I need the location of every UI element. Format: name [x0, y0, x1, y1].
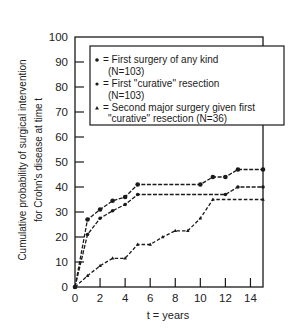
x-axis-ticks: 02468101214	[72, 278, 258, 304]
triangle-marker-icon	[173, 229, 177, 232]
series-line	[75, 187, 263, 287]
y-tick-label: 30	[55, 206, 68, 218]
dot-marker-icon	[85, 217, 90, 222]
x-axis-title: t = years	[147, 309, 190, 321]
series-1	[73, 167, 266, 289]
y-tick-label: 50	[55, 156, 68, 168]
legend-entry-1-line2: (N=103)	[108, 66, 144, 77]
dot-marker-icon	[224, 193, 228, 197]
y-tick-label: 70	[55, 106, 68, 118]
dot-marker-icon	[236, 185, 240, 189]
legend-marker-first-surgery-icon	[95, 58, 99, 62]
dot-marker-icon	[98, 207, 103, 212]
dot-marker-icon	[198, 182, 203, 187]
x-tick-label: 0	[72, 292, 78, 304]
triangle-marker-icon	[111, 256, 115, 259]
dot-marker-icon	[261, 185, 265, 189]
dot-marker-icon	[111, 209, 115, 213]
y-tick-label: 60	[55, 131, 68, 143]
dot-marker-icon	[123, 195, 128, 200]
legend: = First surgery of any kind (N=103) = Fi…	[90, 46, 284, 125]
data-series	[73, 167, 266, 289]
y-axis-title-line2: for Crohn's disease at time t	[33, 98, 44, 222]
legend-marker-curative-resection-icon	[95, 82, 98, 85]
dot-marker-icon	[236, 167, 241, 172]
y-tick-label: 90	[55, 56, 68, 68]
y-axis-ticks: 0102030405060708090100	[49, 31, 84, 293]
series-3	[73, 198, 265, 289]
dot-marker-icon	[136, 193, 140, 197]
y-axis-title-line1: Cumulative probability of surgical inter…	[17, 59, 28, 260]
legend-entry-1-line1: = First surgery of any kind	[103, 54, 218, 65]
x-tick-label: 6	[147, 292, 153, 304]
x-tick-label: 10	[194, 292, 207, 304]
y-tick-label: 80	[55, 81, 68, 93]
series-2	[73, 185, 265, 289]
legend-entry-3-line2: "curative" resection (N=36)	[108, 113, 227, 124]
legend-entry-3-line1: = Second major surgery given first	[103, 102, 255, 113]
y-tick-label: 40	[55, 181, 68, 193]
dot-marker-icon	[211, 175, 216, 180]
dot-marker-icon	[261, 167, 266, 172]
y-tick-label: 0	[62, 281, 68, 293]
dot-marker-icon	[98, 216, 102, 220]
legend-entry-2-line1: = First "curative" resection	[103, 78, 219, 89]
dot-marker-icon	[110, 198, 115, 203]
survival-chart: 0102030405060708090100 02468101214 Cumul…	[0, 0, 301, 336]
series-line	[75, 200, 263, 288]
series-line	[75, 170, 263, 288]
dot-marker-icon	[223, 175, 228, 180]
x-tick-label: 12	[219, 292, 232, 304]
y-tick-label: 20	[55, 231, 68, 243]
x-tick-label: 14	[244, 292, 257, 304]
legend-entry-2-line2: (N=103)	[108, 90, 144, 101]
x-tick-label: 8	[172, 292, 178, 304]
x-tick-label: 2	[97, 292, 103, 304]
dot-marker-icon	[123, 203, 127, 207]
x-tick-label: 4	[122, 292, 129, 304]
y-tick-label: 10	[55, 256, 68, 268]
dot-marker-icon	[86, 233, 90, 237]
y-tick-label: 100	[49, 31, 68, 43]
dot-marker-icon	[135, 182, 140, 187]
